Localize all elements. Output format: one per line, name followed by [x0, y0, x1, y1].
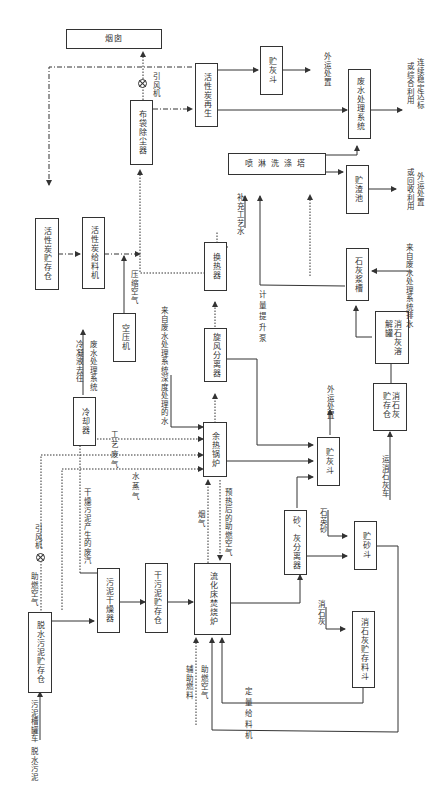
- lime-silo-box: 消石灰贮存仓: [373, 383, 407, 431]
- scrubber-label: 喷淋洗涤塔: [245, 159, 310, 168]
- ash-hopper-mid-box: 贮灰斗: [317, 437, 340, 486]
- air-compressor-label: 空压机: [120, 324, 129, 351]
- wastewater-sys-label: 废水处理系统: [355, 77, 364, 131]
- sand-hopper-label: 贮砂斗: [361, 532, 370, 559]
- combustion-air-bottom-label: 助燃空气: [199, 665, 208, 699]
- cooler-label: 冷却器: [80, 408, 89, 435]
- waste-heat-boiler-label: 余热锅炉: [210, 432, 219, 468]
- chimney-label: 烟囱: [105, 34, 123, 43]
- discharge-label-1: 连续稳定达标: [415, 58, 424, 109]
- induced-draft-fan-top-icon: [138, 79, 147, 88]
- ac-regen-box: 活性炭再生: [195, 63, 218, 127]
- waste-heat-boiler-box: 余热锅炉: [203, 422, 227, 477]
- steam-label: 水蒸气: [130, 472, 139, 502]
- incinerator-label: 流化床焚烧炉: [208, 572, 217, 626]
- induced-draft-fan-left-icon: [36, 553, 45, 562]
- wet-sludge-silo-box: 脱水污泥贮存仓: [28, 612, 52, 693]
- slaked-lime-label: 消石灰: [316, 600, 325, 626]
- bag-filter-label: 布袋除尘器: [137, 110, 146, 155]
- makeup-water-label: 补充工艺水: [235, 193, 244, 236]
- sludge-dryer-label: 污泥干燥器: [104, 578, 113, 623]
- lime-dissolver-label: 消石灰溶解罐: [383, 320, 401, 356]
- aux-fuel-label: 辅助燃料: [184, 665, 193, 699]
- wastewater-sys-box: 废水处理系统: [348, 69, 371, 139]
- lime-silo-label: 消石灰贮存仓: [381, 392, 399, 422]
- condensate-label-1: 冷凝液去往: [74, 340, 83, 383]
- ash-hopper-top-box: 贮灰斗: [260, 46, 283, 95]
- sand-ash-separator-label: 砂、灰分离器: [291, 516, 300, 570]
- discharge-label-2: 或综合利用: [405, 62, 414, 105]
- preheated-air-label: 预热后的助燃空气: [223, 488, 232, 556]
- heat-exchanger-box: 换热器: [204, 242, 227, 291]
- wet-sludge-silo-label: 脱水污泥贮存仓: [35, 621, 44, 684]
- fan-top-label: 引风机: [151, 72, 160, 98]
- cyclone-label: 旋风分离器: [211, 333, 220, 378]
- dry-sludge-silo-label: 干污泥贮存仓: [152, 571, 161, 625]
- wastewater-effluent-label: 来自废水处理系统排水: [404, 243, 413, 328]
- metering-pump-label: 计量提升泵: [257, 290, 266, 345]
- lime-slurry-tank-label: 石灰浆槽: [353, 257, 362, 293]
- dry-sludge-silo-box: 干污泥贮存仓: [145, 563, 168, 633]
- ac-feeder-label: 活性炭给料机: [89, 226, 98, 280]
- ac-feeder-box: 活性炭给料机: [82, 217, 105, 289]
- cyclone-box: 旋风分离器: [204, 328, 227, 382]
- metering-feeder-label: 定量给料机: [243, 687, 252, 742]
- fan-left-label: 引风机: [33, 524, 42, 550]
- heat-exchanger-label: 换热器: [211, 253, 220, 280]
- air-compressor-box: 空压机: [113, 313, 136, 362]
- treated-water-label: 来自废水处理系统深度处理的水: [159, 306, 168, 425]
- flue-gas-label: 烟气: [196, 510, 205, 527]
- ash-hopper-mid-label: 贮灰斗: [324, 448, 333, 475]
- process-waste-gas-label: 工艺废气: [109, 430, 118, 470]
- lime-truck-label: 运消石灰车: [380, 455, 389, 498]
- ac-silo-box: 活性炭贮存仓: [35, 218, 59, 290]
- scrubber-box: 喷淋洗涤塔: [228, 153, 326, 175]
- bag-filter-box: 布袋除尘器: [130, 100, 153, 165]
- lime-feed-hopper-label: 消石灰贮存料斗: [359, 618, 368, 681]
- chimney-box: 烟囱: [66, 29, 162, 49]
- dewatered-sludge-label: 脱水污泥: [29, 747, 38, 781]
- slag-pool-label: 贮渣池: [353, 176, 362, 203]
- incinerator-box: 流化床焚烧炉: [194, 563, 231, 635]
- process-flow-diagram: 烟囱 布袋除尘器 活性炭再生 贮灰斗 废水处理系统 喷淋洗涤塔 贮渣池 活性炭贮…: [0, 0, 432, 800]
- sludge-tanker-label: 污泥槽罐车: [29, 700, 38, 743]
- lime-feed-hopper-box: 消石灰贮存料斗: [352, 611, 375, 688]
- compressed-air-label: 压缩空气: [129, 270, 138, 304]
- dryer-gas-label: 干燥污泥产生的废汽: [82, 488, 91, 565]
- sand-hopper-box: 贮砂斗: [354, 521, 377, 570]
- offsite-disposal-2-label: 外运处置: [325, 385, 334, 419]
- lime-slurry-tank-box: 石灰浆槽: [346, 248, 369, 301]
- cooler-box: 冷却器: [73, 397, 96, 446]
- offsite-disposal-1-label: 外运处置: [322, 52, 331, 86]
- condensate-label-2: 废水处理系统: [88, 340, 97, 391]
- sand-ash-separator-box: 砂、灰分离器: [284, 510, 307, 575]
- sludge-dryer-box: 污泥干燥器: [97, 568, 120, 633]
- slag-pool-box: 贮渣池: [346, 165, 369, 214]
- ac-silo-label: 活性炭贮存仓: [42, 227, 51, 281]
- ac-regen-label: 活性炭再生: [202, 73, 211, 118]
- offsite-recycle-label-2: 或回收利用: [405, 168, 414, 211]
- combustion-air-top-label: 助燃空气: [29, 572, 38, 606]
- offsite-recycle-label-1: 外运处置: [415, 172, 424, 206]
- quartz-sand-label: 石英砂: [318, 508, 327, 534]
- ash-hopper-top-label: 贮灰斗: [267, 57, 276, 84]
